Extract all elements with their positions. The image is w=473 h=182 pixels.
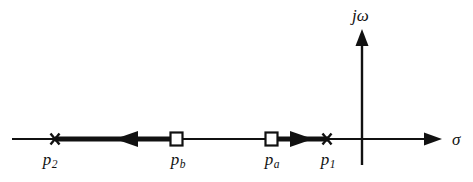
pole-label-pa-letter: p [265,150,274,169]
plot-canvas [0,0,473,182]
pole-label-p2-subscript: 2 [51,158,57,170]
pole-label-pa-subscript: a [273,158,279,170]
locus-segment-left-arrowhead [115,131,138,147]
pole-marker-pb [171,133,183,146]
pole-label-pb-letter: p [171,150,180,169]
pole-label-p1-subscript: 1 [329,158,335,170]
pole-label-p2-letter: p [43,150,52,169]
pole-label-pa: pa [265,151,280,171]
j-omega-axis-arrowhead [356,29,369,46]
j-omega-axis-group [356,29,369,165]
pole-marker-pa [266,133,278,146]
pole-label-p1-letter: p [321,150,330,169]
sigma-axis-label: σ [452,131,460,148]
j-omega-axis-label-omega: ω [357,6,369,25]
pole-label-pb: pb [171,151,186,171]
locus-segment-right-arrowhead [290,131,313,147]
root-locus-figure: jω σ p2 pb pa p1 [0,0,473,182]
pole-label-p1: p1 [321,151,336,171]
pole-label-p2: p2 [43,151,58,171]
sigma-axis-arrowhead [424,133,442,146]
pole-label-pb-subscript: b [179,158,185,170]
locus-segment-right [276,131,329,147]
locus-segment-left [55,131,177,147]
j-omega-axis-label: jω [352,7,369,24]
